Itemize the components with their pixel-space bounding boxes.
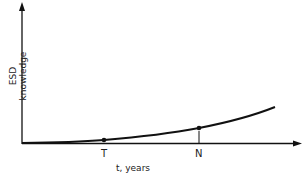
x-axis-label: t, years — [116, 164, 150, 173]
x-axis-arrow-icon — [293, 141, 302, 147]
point-t — [102, 138, 107, 143]
point-n — [197, 126, 202, 131]
y-axis-arrow-icon — [19, 2, 25, 11]
x-tick-label-t: T — [101, 149, 107, 159]
chart-canvas — [0, 0, 305, 179]
y-axis-label: ESD knowledge — [8, 46, 28, 106]
x-tick-label-n: N — [195, 149, 202, 159]
knowledge-curve — [22, 107, 275, 143]
